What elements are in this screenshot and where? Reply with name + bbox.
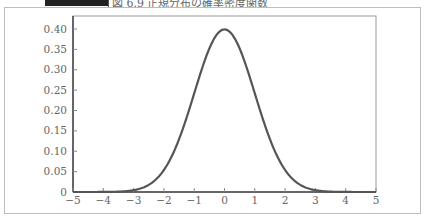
x-tick-label: 4	[342, 194, 349, 206]
y-tick-label: 0.40	[44, 23, 67, 35]
pdf-curve	[73, 29, 376, 192]
x-tick-label: −3	[126, 194, 141, 206]
x-tick-label: 5	[373, 194, 380, 206]
x-tick-label: 0	[221, 194, 228, 206]
y-tick-label: 0.10	[44, 145, 67, 157]
x-tick-label: 2	[282, 194, 289, 206]
y-tick-label: 0.35	[44, 43, 67, 55]
normal-pdf-chart: 00.050.100.150.200.250.300.350.40−5−4−3−…	[0, 0, 426, 221]
plot-area	[73, 16, 376, 192]
x-tick-label: 1	[251, 194, 258, 206]
y-tick-label: 0.05	[44, 165, 67, 177]
x-tick-label: −5	[65, 194, 80, 206]
y-tick-label: 0.30	[44, 63, 67, 75]
y-tick-label: 0.20	[44, 104, 67, 116]
x-tick-label: −4	[96, 194, 112, 206]
x-tick-label: 3	[312, 194, 319, 206]
x-tick-label: −1	[186, 194, 201, 206]
y-tick-label: 0.25	[44, 84, 67, 96]
x-tick-label: −2	[156, 194, 171, 206]
y-tick-label: 0.15	[44, 124, 67, 136]
